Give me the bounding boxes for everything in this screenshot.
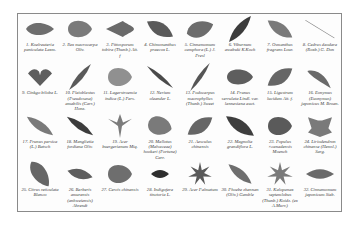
specimen-caption: 8. Cedrus deodara (Roxb.) G. Don (300, 42, 340, 53)
leaf-image (140, 161, 180, 187)
specimen-cell: 23. Populus ×canadensis Moench (260, 113, 300, 161)
leaf-icon (220, 63, 260, 91)
specimen-cell: 20. Mallotus (Malvaceae) hookeri (Fortun… (140, 113, 180, 161)
leaf-icon (140, 63, 180, 91)
leaf-icon (180, 160, 220, 188)
leaf-icon (100, 160, 140, 188)
leaf-image (140, 64, 180, 90)
leaf-image (220, 161, 260, 187)
leaf-icon (300, 112, 340, 140)
specimen-cell: 5. Cinnamomum camphora (L.) J. Presl (180, 16, 220, 64)
leaf-image (220, 64, 260, 90)
leaf-icon (20, 63, 60, 91)
leaf-image (260, 113, 300, 139)
leaf-image (300, 16, 340, 42)
leaf-image (180, 161, 220, 187)
specimen-plate: 1. Koelreuteria paniculata Laxm.2. Ilex … (17, 13, 342, 212)
specimen-caption: 9. Ginkgo biloba L. (21, 90, 59, 95)
leaf-icon (220, 15, 260, 43)
leaf-icon (260, 112, 300, 140)
leaf-icon (60, 112, 100, 140)
leaf-icon (260, 15, 300, 43)
leaf-icon (20, 112, 60, 140)
specimen-caption: 21. Aesculus chinensis (180, 139, 220, 150)
specimen-caption: 18. Manglietia fordiana Oliv. (60, 139, 100, 150)
specimen-cell: 2. Ilex macrocarpa Oliv. (60, 16, 100, 64)
specimen-cell: 18. Manglietia fordiana Oliv. (60, 113, 100, 161)
leaf-image (300, 64, 340, 90)
leaf-icon (20, 15, 60, 43)
leaf-icon (140, 160, 180, 188)
leaf-icon (220, 160, 260, 188)
specimen-caption: 25. Citrus reticulata Blanco (20, 187, 60, 198)
specimen-caption: 16. Eonymus (Euonymus) japonicus M. Broa… (300, 90, 340, 106)
specimen-caption: 12. Nerium oleander L. (140, 90, 180, 101)
specimen-caption: 1. Koelreuteria paniculata Laxm. (20, 42, 60, 53)
specimen-cell: 17. Prunus persica (L.) Batsch (20, 113, 60, 161)
specimen-cell: 1. Koelreuteria paniculata Laxm. (20, 16, 60, 64)
specimen-caption: 2. Ilex macrocarpa Oliv. (60, 42, 100, 53)
specimen-cell: 7. Osmanthus fragrans Lour. (260, 16, 300, 64)
leaf-icon (300, 63, 340, 91)
leaf-image (180, 16, 220, 42)
leaf-image (20, 161, 60, 187)
specimen-caption: 31. Kalopanax septemlobus (Thunb.) Koidz… (260, 187, 300, 209)
specimen-cell: 29. Acer Palmatum (180, 161, 220, 209)
leaf-image (100, 16, 140, 42)
leaf-image (260, 16, 300, 42)
leaf-image (60, 64, 100, 90)
specimen-caption: 19. Acer buergerianum Miq. (100, 139, 140, 150)
leaf-icon (140, 112, 180, 140)
specimen-caption: 13. Podocarpus macrophyllus (Thunb.) Swe… (180, 90, 220, 106)
leaf-image (100, 64, 140, 90)
specimen-cell: 32. Cinnamomum japonicum Sieb. (300, 161, 340, 209)
specimen-cell: 27. Cercis chinensis (100, 161, 140, 209)
specimen-caption: 26. Berberis amurensis (anhweiensis) Ahr… (60, 187, 100, 209)
leaf-image (260, 64, 300, 90)
specimen-cell: 26. Berberis amurensis (anhweiensis) Ahr… (60, 161, 100, 209)
specimen-caption: 29. Acer Palmatum (181, 187, 219, 192)
specimen-caption: 3. Pittosporum tobira (Thunb.) Ait. f (100, 42, 140, 58)
specimen-cell: 21. Aesculus chinensis (180, 113, 220, 161)
leaf-icon (100, 15, 140, 43)
leaf-icon (60, 160, 100, 188)
specimen-cell: 16. Eonymus (Euonymus) japonicus M. Broa… (300, 64, 340, 112)
specimen-caption: 20. Mallotus (Malvaceae) hookeri (Fortun… (140, 139, 180, 161)
leaf-icon (260, 63, 300, 91)
specimen-cell: 15. Ligustrum lucidum Ait. f. (260, 64, 300, 112)
leaf-icon (220, 112, 260, 140)
leaf-icon (100, 63, 140, 91)
leaf-icon (140, 15, 180, 43)
leaf-icon (60, 63, 100, 91)
specimen-caption: 15. Ligustrum lucidum Ait. f. (260, 90, 300, 101)
leaf-image (260, 161, 300, 187)
leaf-image (300, 113, 340, 139)
specimen-cell: 19. Acer buergerianum Miq. (100, 113, 140, 161)
specimen-caption: 24. Liriodendron chinense (Hemsl.) Sarg. (300, 139, 340, 155)
specimen-caption: 28. Indigofera tinctoria L. (140, 187, 180, 198)
specimen-grid: 1. Koelreuteria paniculata Laxm.2. Ilex … (20, 16, 339, 209)
leaf-icon (180, 15, 220, 43)
leaf-image (60, 16, 100, 42)
specimen-cell: 24. Liriodendron chinense (Hemsl.) Sarg. (300, 113, 340, 161)
specimen-caption: 17. Prunus persica (L.) Batsch (20, 139, 60, 150)
leaf-icon (300, 15, 340, 43)
specimen-cell: 10. Pleioblastus (Pseudosasa) amabilis (… (60, 64, 100, 112)
specimen-caption: 5. Cinnamomum camphora (L.) J. Presl (180, 42, 220, 58)
specimen-cell: 25. Citrus reticulata Blanco (20, 161, 60, 209)
specimen-cell: 9. Ginkgo biloba L. (20, 64, 60, 112)
leaf-icon (180, 112, 220, 140)
specimen-caption: 14. Prunus serrulata Lindl. var. lannesi… (220, 90, 260, 106)
leaf-image (100, 113, 140, 139)
leaf-image (220, 113, 260, 139)
leaf-icon (20, 160, 60, 188)
specimen-cell: 31. Kalopanax septemlobus (Thunb.) Koidz… (260, 161, 300, 209)
specimen-caption: 11. Lagerstroemia indica (L.) Pers. (100, 90, 140, 101)
specimen-caption: 22. Magnolia grandiflora L. (220, 139, 260, 150)
leaf-image (180, 64, 220, 90)
leaf-image (20, 16, 60, 42)
specimen-cell: 28. Indigofera tinctoria L. (140, 161, 180, 209)
specimen-cell: 8. Cedrus deodara (Roxb.) G. Don (300, 16, 340, 64)
leaf-image (100, 161, 140, 187)
leaf-image (140, 16, 180, 42)
